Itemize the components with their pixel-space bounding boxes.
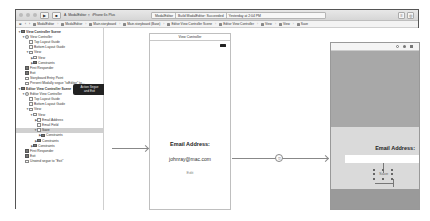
resize-handle[interactable] [373, 169, 375, 171]
email-field[interactable] [345, 155, 420, 163]
resize-handle[interactable] [373, 178, 375, 180]
view-controller-scene[interactable]: View Controller Email Address: johnray@m… [149, 33, 231, 210]
outline-item-icon [29, 40, 33, 44]
edit-button[interactable]: Edit [150, 170, 230, 175]
activity-status: ModalEditor Build ModalEditor: Succeeded… [151, 12, 326, 19]
chevron-icon: › [215, 22, 216, 26]
arrow-head-icon [142, 144, 149, 151]
status-time: Yesterday at 2:04 PM [229, 14, 261, 18]
outline-item-icon [25, 77, 29, 81]
resize-handle[interactable] [391, 173, 393, 175]
stop-button[interactable]: ■ [52, 12, 61, 19]
jump-item-save[interactable]: Save [297, 22, 308, 26]
device-name: iPhone 6s Plus [92, 13, 115, 17]
forward-icon[interactable]: › [29, 22, 30, 26]
related-items-icon[interactable]: ⊞ [19, 22, 22, 26]
modal-segue-icon[interactable]: ◫ [275, 154, 283, 162]
outline-row-label: Constraints [46, 133, 63, 137]
outline-item-icon [21, 30, 25, 34]
outline-row-label: Bottom Layout Guide [34, 102, 65, 106]
outline-row-label: Exit [30, 71, 36, 75]
bottom-view-area [331, 189, 419, 210]
jump-item-view[interactable]: View [261, 22, 272, 26]
jump-item-folder[interactable]: ModalEditor [61, 22, 82, 26]
chevron-icon: › [293, 22, 294, 26]
resize-handle[interactable] [382, 169, 384, 171]
outline-row-label: Email Field [42, 123, 58, 127]
tooltip-line: and Exit [73, 89, 106, 93]
view-icon [261, 23, 264, 26]
outline-item-icon [37, 118, 41, 122]
chevron-icon: › [85, 22, 86, 26]
content-view: Email Address: Save [331, 127, 419, 189]
email-value-label: johnray@mac.com [150, 156, 230, 162]
play-icon: ▶ [43, 13, 46, 18]
outline-item-icon [25, 92, 29, 96]
document-outline: ▼View Controller Scene▼View ControllerTo… [16, 28, 104, 210]
scheme-selector[interactable]: A ModalEditor ▯ iPhone 6s Plus [64, 13, 115, 17]
outline-item-icon [29, 45, 33, 49]
storyboard-canvas[interactable]: View Controller Email Address: johnray@m… [104, 28, 420, 210]
outline-item-icon [29, 51, 33, 55]
jump-item-storyboard[interactable]: Main.storyboard [89, 22, 116, 26]
rings-icon: ◎ [409, 13, 412, 18]
outline-row-label: View [34, 107, 41, 111]
run-button[interactable]: ▶ [40, 12, 49, 19]
tooltip: Action Segue and Exit [73, 84, 106, 95]
status-project: ModalEditor [155, 14, 173, 18]
exit-icon[interactable] [410, 45, 413, 48]
xcode-window: ▶ ■ A ModalEditor ▯ iPhone 6s Plus Modal… [15, 9, 419, 209]
jump-item-project[interactable]: ModalEditor [33, 22, 54, 26]
scene-dock [331, 43, 419, 51]
resize-handle[interactable] [373, 173, 375, 175]
outline-item-icon [29, 108, 33, 112]
minimize-window-button[interactable] [26, 13, 30, 17]
status-text: Build ModalEditor: Succeeded [178, 14, 223, 18]
editor-icon: ≡ [400, 13, 402, 18]
view-controller-icon[interactable] [396, 45, 399, 48]
arrow-head-icon [322, 154, 329, 161]
toolbar-right: ≡ ◎ [398, 12, 414, 19]
jump-label: Main.storyboard [93, 22, 116, 26]
outline-row[interactable]: Unwind segue to "Exit" [16, 159, 103, 164]
close-window-button[interactable] [19, 13, 23, 17]
outline-row-label: Top Layout Guide [34, 97, 60, 101]
jump-item-controller[interactable]: Editor View Controller [219, 22, 254, 26]
outline-item-icon [37, 139, 41, 143]
jump-item-subview[interactable]: View [279, 22, 290, 26]
outline-item-icon [33, 144, 37, 148]
jump-item-storyboard-base[interactable]: Main.storyboard (Base) [123, 22, 160, 26]
outline-item-icon [33, 61, 37, 65]
view-controller-icon [219, 23, 222, 26]
chevron-icon: › [163, 22, 164, 26]
outline-row-label: Constraints [38, 144, 55, 148]
outline-row-label: Top Layout Guide [34, 40, 60, 44]
jump-label: Save [301, 22, 308, 26]
outline-row-label: Storyboard Entry Point [30, 76, 63, 80]
back-icon[interactable]: ‹ [25, 22, 26, 26]
outline-row-label: Email Address [42, 118, 63, 122]
outline-item-icon [29, 97, 33, 101]
storyboard-icon [123, 23, 126, 26]
save-button[interactable]: Save [379, 171, 388, 176]
zoom-window-button[interactable] [33, 13, 37, 17]
editor-view-controller-scene[interactable]: Email Address: Save [330, 42, 420, 210]
constraint-line [375, 183, 393, 184]
scene-title: View Controller [150, 34, 230, 41]
resize-handle[interactable] [391, 169, 393, 171]
outline-item-icon [25, 71, 29, 75]
outline-row-label: Bottom Layout Guide [34, 45, 65, 49]
folder-icon [61, 23, 64, 26]
jump-label: ModalEditor [65, 22, 82, 26]
editor-standard-button[interactable]: ≡ [398, 12, 405, 19]
battery-icon [220, 44, 226, 47]
assistant-editor-button[interactable]: ◎ [407, 12, 414, 19]
stop-icon: ■ [55, 13, 57, 18]
first-responder-icon[interactable] [403, 45, 406, 48]
outline-item-icon [25, 160, 29, 164]
resize-handle[interactable] [382, 178, 384, 180]
outline-row-label: View [38, 56, 45, 60]
chevron-icon: › [119, 22, 120, 26]
email-address-label: Email Address: [150, 141, 230, 147]
jump-item-scene[interactable]: Editor View Controller Scene [167, 22, 212, 26]
